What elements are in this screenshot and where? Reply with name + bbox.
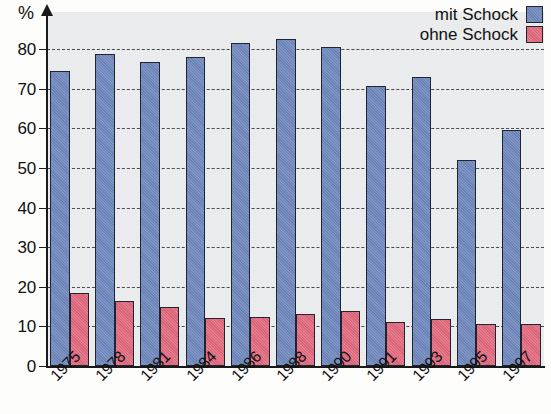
- bar-1981-mit-schock: [140, 62, 160, 366]
- bar-1978-mit-schock: [95, 54, 115, 366]
- bar-1995-mit-schock: [457, 160, 477, 366]
- legend-swatch-icon: [526, 26, 543, 43]
- bar-1975-mit-schock: [50, 71, 70, 366]
- y-tick-label-60: 60: [2, 120, 36, 137]
- y-tick-label-0: 0: [2, 358, 36, 375]
- bar-1986-mit-schock: [231, 43, 251, 366]
- y-tick-label-10: 10: [2, 318, 36, 335]
- legend-item-ohne-schock: ohne Schock: [420, 26, 543, 43]
- legend: mit Schockohne Schock: [420, 6, 543, 43]
- y-tick-70: [39, 89, 47, 90]
- y-tick-30: [39, 247, 47, 248]
- y-tick-60: [39, 128, 47, 129]
- bars-layer: [47, 12, 544, 367]
- y-tick-label-40: 40: [2, 200, 36, 217]
- y-tick-40: [39, 208, 47, 209]
- y-tick-label-20: 20: [2, 279, 36, 296]
- bar-1997-mit-schock: [502, 130, 522, 366]
- y-tick-20: [39, 287, 47, 288]
- legend-label: mit Schock: [435, 6, 518, 23]
- bar-1993-mit-schock: [412, 77, 432, 366]
- y-tick-label-80: 80: [2, 41, 36, 58]
- bar-1984-mit-schock: [186, 57, 206, 366]
- y-tick-label-50: 50: [2, 160, 36, 177]
- legend-item-mit-schock: mit Schock: [420, 6, 543, 23]
- y-tick-label-70: 70: [2, 81, 36, 98]
- y-tick-label-30: 30: [2, 239, 36, 256]
- bar-1990-mit-schock: [321, 47, 341, 366]
- y-tick-0: [39, 366, 47, 367]
- y-tick-50: [39, 168, 47, 169]
- y-axis-title: %: [18, 4, 34, 22]
- bar-chart: % 01020304050607080 19751978198119841986…: [0, 0, 551, 414]
- legend-swatch-icon: [526, 6, 543, 23]
- y-tick-80: [39, 49, 47, 50]
- bar-1988-mit-schock: [276, 39, 296, 366]
- x-axis-labels: 1975197819811984198619881990199119931995…: [47, 368, 544, 414]
- y-tick-10: [39, 326, 47, 327]
- legend-label: ohne Schock: [420, 26, 518, 43]
- bar-1991-mit-schock: [366, 86, 386, 366]
